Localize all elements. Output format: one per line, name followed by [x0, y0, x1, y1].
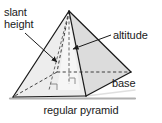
label-slant-height: slant height [4, 6, 33, 30]
diagram-canvas: slant height altitude base regular pyram… [0, 0, 162, 123]
label-base: base [112, 77, 135, 89]
label-altitude: altitude [113, 29, 148, 41]
figure-caption: regular pyramid [0, 104, 162, 116]
